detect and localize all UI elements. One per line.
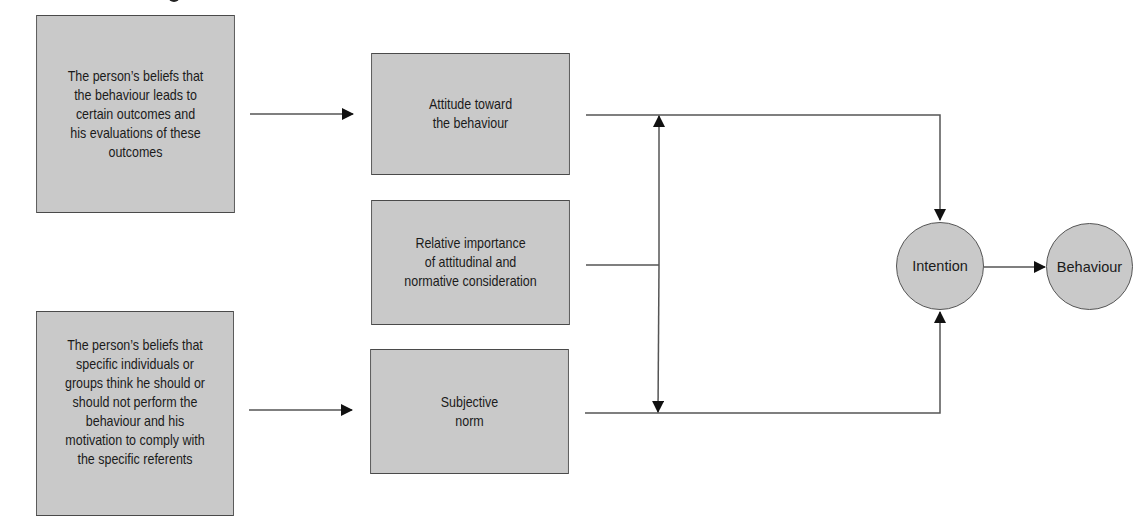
- node-beliefs-referents-label: The person’s beliefs that specific indiv…: [65, 336, 205, 469]
- node-attitude: Attitude toward the behaviour: [371, 53, 570, 175]
- node-intention-label: Intention: [912, 258, 968, 274]
- arrow-attitude-to-intention: [586, 115, 940, 220]
- node-subjective-norm-label: Subjective norm: [441, 393, 499, 431]
- node-beliefs-outcomes-label: The person’s beliefs that the behaviour …: [68, 67, 204, 162]
- node-behaviour: Behaviour: [1046, 223, 1133, 310]
- node-beliefs-referents: The person’s beliefs that specific indiv…: [36, 311, 234, 516]
- arrow-norm-to-intention: [585, 312, 940, 413]
- node-relative-importance-label: Relative importance of attitudinal and n…: [404, 234, 536, 291]
- node-subjective-norm: Subjective norm: [370, 349, 569, 474]
- node-attitude-label: Attitude toward the behaviour: [429, 95, 512, 133]
- node-intention: Intention: [896, 222, 984, 310]
- node-beliefs-outcomes: The person’s beliefs that the behaviour …: [36, 15, 235, 213]
- node-relative-importance: Relative importance of attitudinal and n…: [371, 200, 570, 325]
- arrow-down-to-norm-line: [658, 265, 659, 412]
- node-behaviour-label: Behaviour: [1057, 259, 1122, 275]
